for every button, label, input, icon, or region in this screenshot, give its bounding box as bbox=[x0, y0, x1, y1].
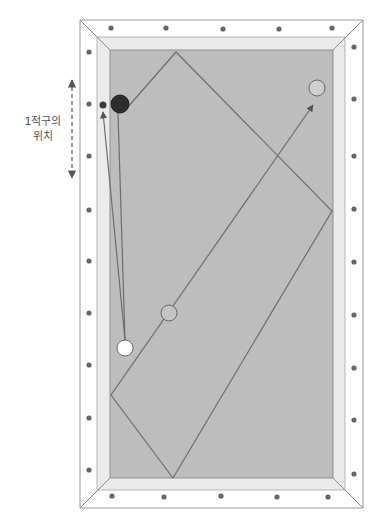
label-line-1: 1적구의 bbox=[18, 114, 68, 129]
table-cloth bbox=[110, 50, 333, 478]
small-ball-marker bbox=[100, 102, 107, 109]
billiards-table-diagram bbox=[0, 0, 384, 520]
target-ball bbox=[309, 80, 325, 96]
object-ball-position-label: 1적구의 위치 bbox=[18, 114, 68, 144]
cue-ball bbox=[117, 340, 133, 356]
label-line-2: 위치 bbox=[18, 129, 68, 144]
ghost-ball bbox=[161, 305, 177, 321]
object-ball bbox=[111, 95, 129, 113]
